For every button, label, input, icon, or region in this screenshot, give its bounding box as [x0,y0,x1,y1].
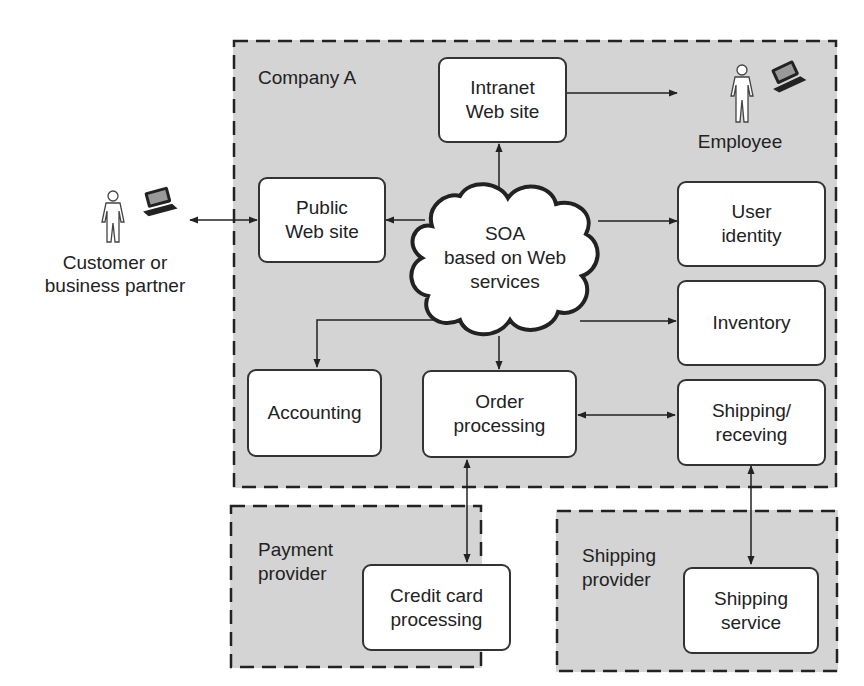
node-shipping-receiving[interactable]: Shipping/ receving [677,379,826,466]
edge-hub-accounting [317,320,442,367]
customer-label: Customer or business partner [20,251,210,297]
node-user-identity[interactable]: User identity [677,181,826,267]
employee-label: Employee [680,130,800,153]
employee-person-icon [731,65,753,122]
payment-provider-label: Payment provider [258,538,333,586]
soa-hub-label: SOA based on Web services [425,222,585,294]
employee-laptop-icon [765,58,806,94]
company-a-label: Company A [258,66,356,90]
node-order-processing[interactable]: Order processing [422,370,577,458]
node-credit-card-processing[interactable]: Credit card processing [362,564,511,651]
customer-laptop-icon [138,185,177,217]
node-inventory[interactable]: Inventory [677,280,826,366]
node-shipping-service[interactable]: Shipping service [683,567,819,654]
customer-person-icon [102,191,124,242]
node-intranet-web-site[interactable]: Intranet Web site [438,57,567,143]
node-accounting[interactable]: Accounting [247,369,382,457]
node-public-web-site[interactable]: Public Web site [258,177,386,263]
shipping-provider-label: Shipping provider [582,544,656,592]
